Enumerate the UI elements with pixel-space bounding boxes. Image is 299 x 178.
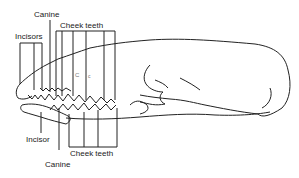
label-lower-canine: Canine (45, 161, 70, 169)
mandible-outline (21, 104, 70, 124)
label-upper-incisors: Incisors (15, 33, 43, 41)
label-mark-c: c (88, 74, 91, 79)
label-mark-C: C (75, 72, 79, 78)
label-lower-incisor: Incisor (26, 136, 50, 144)
label-lower-cheek-teeth: Cheek teeth (70, 150, 113, 158)
skull-diagram: Canine Cheek teeth Incisors C c Incisor … (0, 0, 299, 178)
label-upper-canine: Canine (34, 11, 59, 19)
label-upper-cheek-teeth: Cheek teeth (60, 22, 103, 30)
skull-drawing (0, 0, 299, 178)
